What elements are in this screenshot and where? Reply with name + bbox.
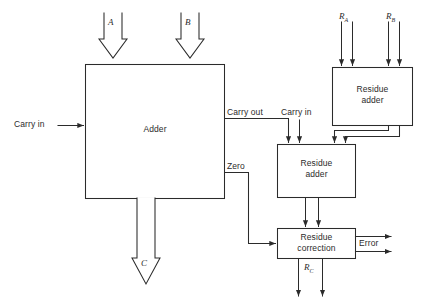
bus-label-rc: RC bbox=[304, 262, 314, 274]
bus-label-rb: RB bbox=[386, 11, 395, 23]
carry-out-label: Carry out bbox=[227, 108, 263, 118]
residue-correction-line1: Residue bbox=[277, 232, 356, 243]
residue-adder-top-line2: adder bbox=[332, 95, 413, 106]
residue-correction-line2: correction bbox=[277, 243, 356, 254]
diagram-canvas: Adder Residue adder Residue adder Residu… bbox=[0, 0, 427, 308]
residue-adder-top-label: Residue adder bbox=[332, 84, 413, 105]
residue-adder-mid-line2: adder bbox=[277, 169, 356, 180]
carry-in-left-label: Carry in bbox=[14, 120, 45, 130]
bus-label-rc-sub: C bbox=[310, 268, 314, 274]
wire-top-adder-out-1 bbox=[335, 126, 389, 143]
bus-label-ra: RA bbox=[339, 11, 348, 23]
error-label: Error bbox=[359, 239, 378, 249]
carry-in-right-label: Carry in bbox=[281, 108, 312, 118]
adder-label-line1: Adder bbox=[143, 124, 166, 134]
wire-top-adder-out-2 bbox=[346, 126, 400, 143]
bus-label-ra-sub: A bbox=[345, 17, 349, 23]
residue-correction-label: Residue correction bbox=[277, 232, 356, 253]
block-diagram-svg bbox=[0, 0, 427, 308]
wire-carry-out bbox=[225, 119, 289, 143]
residue-adder-top-line1: Residue bbox=[332, 84, 413, 95]
bus-label-b: B bbox=[185, 17, 191, 27]
bus-label-a: A bbox=[108, 17, 114, 27]
residue-adder-mid-label: Residue adder bbox=[277, 158, 356, 179]
bus-label-c: C bbox=[141, 258, 147, 268]
adder-block-label: Adder bbox=[85, 124, 225, 135]
zero-label: Zero bbox=[227, 162, 245, 172]
wire-zero bbox=[225, 173, 276, 244]
bus-arrow-c bbox=[132, 198, 160, 284]
residue-adder-mid-line1: Residue bbox=[277, 158, 356, 169]
bus-label-rb-sub: B bbox=[392, 17, 396, 23]
